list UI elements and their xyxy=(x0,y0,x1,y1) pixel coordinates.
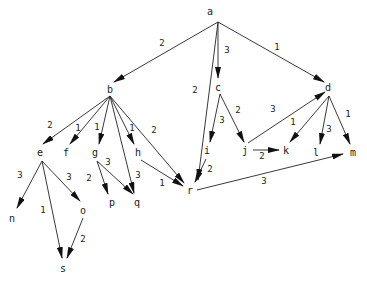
edge-d-l xyxy=(320,96,329,144)
edge-d-m xyxy=(329,96,350,144)
edge-a-d xyxy=(218,22,324,82)
edge-j-d xyxy=(248,92,325,143)
edge-weight-e-o: 3 xyxy=(66,172,71,182)
node-l: l xyxy=(313,147,319,158)
node-g: g xyxy=(92,147,98,158)
edge-d-k xyxy=(290,96,329,142)
edge-a-b xyxy=(114,22,218,82)
node-c: c xyxy=(215,82,221,93)
edge-weight-b-h: 1 xyxy=(129,123,134,133)
edge-weight-g-p: 2 xyxy=(86,173,91,183)
edge-weight-a-r: 2 xyxy=(192,85,197,95)
edge-weight-d-k: 1 xyxy=(290,117,295,127)
node-a: a xyxy=(207,6,213,17)
node-e: e xyxy=(37,147,43,158)
edge-weight-a-b: 2 xyxy=(159,38,164,48)
node-p: p xyxy=(109,197,115,208)
node-n: n xyxy=(9,213,15,224)
edge-weight-c-i: 3 xyxy=(219,115,224,125)
edge-r-m xyxy=(197,154,343,190)
edge-weight-g-q: 3 xyxy=(105,157,110,167)
node-d: d xyxy=(325,82,331,93)
edge-weight-a-d: 1 xyxy=(274,42,279,52)
edge-weight-b-f: 1 xyxy=(75,123,80,133)
node-s: s xyxy=(60,263,66,274)
edge-weight-b-q: 3 xyxy=(135,170,140,180)
node-o: o xyxy=(80,205,86,216)
edge-e-o xyxy=(42,161,80,201)
node-q: q xyxy=(134,197,140,208)
edge-weight-j-d: 3 xyxy=(270,104,275,114)
node-f: f xyxy=(63,147,69,158)
node-i: i xyxy=(204,145,210,156)
edges-group xyxy=(17,22,350,258)
edge-weight-b-g: 1 xyxy=(94,122,99,132)
edge-weight-j-k: 2 xyxy=(259,151,264,161)
node-r: r xyxy=(187,185,193,196)
node-j: j xyxy=(242,145,248,156)
node-b: b xyxy=(107,84,113,95)
edge-weight-e-n: 3 xyxy=(17,170,22,180)
edge-a-r xyxy=(198,22,218,180)
edge-weight-e-s: 1 xyxy=(40,205,45,215)
edge-weight-o-s: 2 xyxy=(80,234,85,244)
edge-weight-b-r: 2 xyxy=(151,125,156,135)
edge-weight-b-e: 2 xyxy=(47,120,52,130)
edge-weight-d-l: 3 xyxy=(326,124,331,134)
edge-weight-h-r: 1 xyxy=(159,178,164,188)
nodes-group: abcdefghijklmnopqrs xyxy=(9,6,356,274)
graph-diagram: 22312113123213132313223123 abcdefghijklm… xyxy=(0,0,367,285)
edge-weight-a-c: 3 xyxy=(224,45,229,55)
edge-weight-r-m: 3 xyxy=(261,176,266,186)
node-k: k xyxy=(283,145,289,156)
edge-weight-c-j: 2 xyxy=(235,105,240,115)
node-h: h xyxy=(135,147,141,158)
node-m: m xyxy=(350,147,356,158)
edge-weight-d-m: 1 xyxy=(345,109,350,119)
edge-e-n xyxy=(17,161,42,208)
edge-weight-i-r: 2 xyxy=(207,164,212,174)
graph-canvas: 22312113123213132313223123 abcdefghijklm… xyxy=(0,0,367,285)
